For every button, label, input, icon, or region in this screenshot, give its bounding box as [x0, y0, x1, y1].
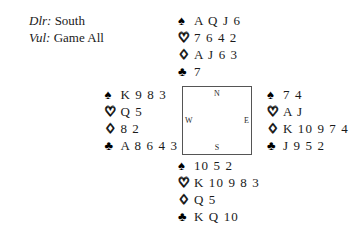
hand-south-hearts: ♡ K 10 9 8 3: [178, 174, 260, 191]
spade-icon: ♠: [267, 86, 280, 103]
club-icon: ♣: [178, 63, 191, 80]
hand-west-clubs-cards: A 8 6 4 3: [117, 137, 178, 154]
heart-icon: ♡: [178, 29, 191, 46]
hand-south-spades-cards: 10 5 2: [191, 157, 233, 174]
compass-label-west: W: [185, 116, 193, 125]
dealer-label: Dlr:: [29, 13, 51, 28]
club-icon: ♣: [104, 137, 117, 154]
hand-south-spades: ♠ 10 5 2: [178, 157, 260, 174]
spade-icon: ♠: [178, 157, 191, 174]
hand-east-clubs: ♣ J 9 5 2: [267, 137, 349, 154]
hand-north-diamonds: ♢ A J 6 3: [178, 46, 241, 63]
vulnerability-label: Vul:: [29, 30, 50, 45]
hand-east-diamonds-cards: K 10 9 7 4: [280, 120, 349, 137]
hand-east: ♠ 7 4 ♡ A J ♢ K 10 9 7 4 ♣ J 9 5 2: [267, 86, 349, 154]
hand-west-clubs: ♣ A 8 6 4 3: [104, 137, 178, 154]
hand-west-hearts: ♡ Q 5: [104, 103, 178, 120]
dealer-row: Dlr: South: [29, 12, 104, 29]
heart-icon: ♡: [104, 103, 117, 120]
hand-east-spades: ♠ 7 4: [267, 86, 349, 103]
hand-east-diamonds: ♢ K 10 9 7 4: [267, 120, 349, 137]
hand-west-spades: ♠ K 9 8 3: [104, 86, 178, 103]
compass-box: N W E S: [182, 86, 252, 155]
hand-south-hearts-cards: K 10 9 8 3: [191, 174, 260, 191]
diamond-icon: ♢: [104, 120, 117, 137]
dealer-value: South: [55, 13, 85, 28]
diamond-icon: ♢: [178, 46, 191, 63]
spade-icon: ♠: [104, 86, 117, 103]
hand-east-hearts-cards: A J: [280, 103, 303, 120]
hand-west-diamonds: ♢ 8 2: [104, 120, 178, 137]
hand-west-hearts-cards: Q 5: [117, 103, 142, 120]
hand-north-spades-cards: A Q J 6: [191, 12, 241, 29]
hand-north-clubs-cards: 7: [191, 63, 202, 80]
diamond-icon: ♢: [178, 191, 191, 208]
hand-south-clubs-cards: K Q 10: [191, 208, 239, 225]
hand-north-spades: ♠ A Q J 6: [178, 12, 241, 29]
club-icon: ♣: [267, 137, 280, 154]
vulnerability-value: Game All: [54, 30, 104, 45]
deal-info-block: Dlr: South Vul: Game All: [29, 12, 104, 46]
diamond-icon: ♢: [267, 120, 280, 137]
club-icon: ♣: [178, 208, 191, 225]
hand-east-spades-cards: 7 4: [280, 86, 303, 103]
hand-south-diamonds-cards: Q 5: [191, 191, 216, 208]
compass-label-north: N: [183, 89, 251, 98]
hand-west: ♠ K 9 8 3 ♡ Q 5 ♢ 8 2 ♣ A 8 6 4 3: [104, 86, 178, 154]
hand-north-diamonds-cards: A J 6 3: [191, 46, 238, 63]
hand-north-hearts: ♡ 7 6 4 2: [178, 29, 241, 46]
vulnerability-row: Vul: Game All: [29, 29, 104, 46]
hand-west-diamonds-cards: 8 2: [117, 120, 140, 137]
compass-label-south: S: [183, 143, 251, 152]
hand-south-diamonds: ♢ Q 5: [178, 191, 260, 208]
hand-east-clubs-cards: J 9 5 2: [280, 137, 325, 154]
hand-north-clubs: ♣ 7: [178, 63, 241, 80]
hand-south: ♠ 10 5 2 ♡ K 10 9 8 3 ♢ Q 5 ♣ K Q 10: [178, 157, 260, 225]
hand-west-spades-cards: K 9 8 3: [117, 86, 166, 103]
hand-east-hearts: ♡ A J: [267, 103, 349, 120]
heart-icon: ♡: [178, 174, 191, 191]
compass-label-east: E: [244, 116, 249, 125]
spade-icon: ♠: [178, 12, 191, 29]
heart-icon: ♡: [267, 103, 280, 120]
hand-north: ♠ A Q J 6 ♡ 7 6 4 2 ♢ A J 6 3 ♣ 7: [178, 12, 241, 80]
hand-south-clubs: ♣ K Q 10: [178, 208, 260, 225]
hand-north-hearts-cards: 7 6 4 2: [191, 29, 237, 46]
